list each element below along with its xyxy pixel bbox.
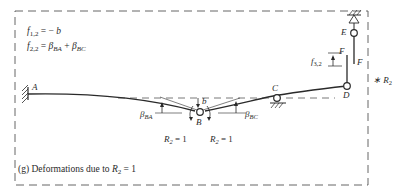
equation-f22: f2,2 = βBA + βBC	[27, 41, 86, 53]
label-f-top: F	[338, 46, 345, 56]
label-b: B	[196, 117, 202, 127]
hinge-b	[197, 109, 204, 116]
beam-ab	[28, 94, 195, 111]
deformation-diagram: A B C D E F F b βBA βBC R2 = 1 R2 = 1 f3…	[0, 0, 402, 188]
label-f-right: F	[356, 57, 363, 67]
label-beta-ba: βBA	[139, 109, 152, 120]
label-beta-bc: βBC	[244, 109, 258, 120]
label-f32: f3,2	[311, 56, 322, 67]
label-b-deflection: b	[202, 96, 207, 106]
label-a: A	[31, 82, 38, 92]
label-r2-right: R2 = 1	[209, 134, 233, 145]
pinned-support-e	[347, 10, 361, 36]
label-d: D	[342, 90, 350, 100]
fixed-support-a	[22, 85, 28, 103]
hinge-d	[344, 83, 351, 90]
label-c: C	[272, 83, 279, 93]
caption: (g) Deformations due to R2 = 1	[18, 164, 136, 176]
label-r2-left: R2 = 1	[163, 134, 187, 145]
label-e: E	[340, 27, 347, 37]
f32-arrow-icon	[331, 55, 335, 60]
label-star-r2: ∗ R2	[373, 75, 392, 86]
b-arrow-icon	[196, 104, 200, 108]
equation-f12: f1,2 = − b	[27, 26, 61, 38]
